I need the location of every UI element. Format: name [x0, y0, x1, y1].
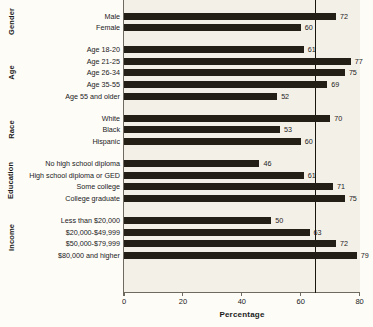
group-label-text: Gender: [7, 8, 16, 35]
group-label-age: Age: [0, 44, 22, 101]
horizontal-bar-chart: Male72Female60Age 18-2061Age 21-2577Age …: [0, 0, 373, 327]
bar-value-label: 53: [284, 124, 292, 135]
bar-row: Female60: [124, 22, 373, 33]
bar-value-label: 72: [340, 11, 348, 22]
x-axis-tick: [241, 292, 242, 296]
bar: [124, 195, 345, 202]
group-label-education: Education: [0, 158, 22, 204]
bar-value-label: 63: [314, 227, 322, 238]
bar-value-label: 60: [305, 136, 313, 147]
x-axis-tick: [359, 292, 360, 296]
x-axis-tick-label: 80: [355, 297, 363, 306]
bar-value-label: 75: [349, 67, 357, 78]
bar-category-label: $20,000-$49,999: [66, 227, 120, 238]
bar-value-label: 46: [263, 158, 271, 169]
bar: [124, 126, 280, 133]
bar-category-label: Age 26-34: [87, 67, 120, 78]
x-axis-tick: [182, 292, 183, 296]
bar-row: Age 35-5569: [124, 79, 373, 90]
x-axis-tick-label: 0: [122, 297, 126, 306]
bar-category-label: $80,000 and higher: [58, 250, 120, 261]
bar-category-label: Age 18-20: [87, 44, 120, 55]
bar-value-label: 50: [275, 215, 283, 226]
bar: [124, 93, 277, 100]
bar-category-label: Hispanic: [92, 136, 120, 147]
bar-row: Male72: [124, 11, 373, 22]
bar-row: High school diploma or GED61: [124, 170, 373, 181]
bar-value-label: 52: [281, 91, 289, 102]
bar: [124, 13, 336, 20]
bar-row: $50,000-$79,99972: [124, 238, 373, 249]
x-axis-tick-label: 20: [179, 297, 187, 306]
group-label-race: Race: [0, 113, 22, 147]
bar-row: Some college71: [124, 181, 373, 192]
bar-row: Age 55 and older52: [124, 91, 373, 102]
bar-value-label: 70: [334, 113, 342, 124]
bar-category-label: $50,000-$79,999: [66, 238, 120, 249]
bar-category-label: Some college: [76, 181, 120, 192]
bar-value-label: 71: [337, 181, 345, 192]
group-label-text: Education: [7, 162, 16, 199]
bar-row: Age 21-2577: [124, 56, 373, 67]
bar-row: $80,000 and higher79: [124, 250, 373, 261]
bar-category-label: College graduate: [65, 193, 120, 204]
bar-category-label: High school diploma or GED: [29, 170, 120, 181]
bar-value-label: 60: [305, 22, 313, 33]
bar-value-label: 69: [331, 79, 339, 90]
bar-value-label: 75: [349, 193, 357, 204]
x-axis-tick-label: 40: [238, 297, 246, 306]
bar-category-label: Less than $20,000: [61, 215, 120, 226]
bar-category-label: Age 21-25: [87, 56, 120, 67]
x-axis-tick-label: 60: [297, 297, 305, 306]
bar: [124, 115, 330, 122]
bar-category-label: Black: [102, 124, 120, 135]
bar-value-label: 77: [355, 56, 363, 67]
group-label-text: Race: [7, 121, 16, 139]
bar: [124, 160, 259, 167]
bar-row: Age 26-3475: [124, 67, 373, 78]
bar: [124, 240, 336, 247]
bar-row: White70: [124, 113, 373, 124]
group-label-gender: Gender: [0, 11, 22, 34]
bar-row: Black53: [124, 124, 373, 135]
bar: [124, 138, 301, 145]
group-label-text: Age: [7, 66, 16, 80]
bar-category-label: Female: [96, 22, 120, 33]
bar: [124, 183, 333, 190]
group-label-income: Income: [0, 215, 22, 261]
bar: [124, 81, 327, 88]
bar: [124, 172, 304, 179]
bar: [124, 69, 345, 76]
bar: [124, 58, 351, 65]
group-label-text: Income: [7, 224, 16, 251]
bar-category-label: No high school diploma: [45, 158, 120, 169]
x-axis-tick: [300, 292, 301, 296]
bar-category-label: White: [102, 113, 120, 124]
bar-row: $20,000-$49,99963: [124, 227, 373, 238]
bar-value-label: 72: [340, 238, 348, 249]
bar-value-label: 61: [308, 170, 316, 181]
x-axis-tick: [123, 292, 124, 296]
bar-row: No high school diploma46: [124, 158, 373, 169]
bar: [124, 252, 357, 259]
bar: [124, 217, 271, 224]
x-axis-title: Percentage: [124, 310, 360, 319]
bar-category-label: Male: [104, 11, 120, 22]
bar: [124, 229, 310, 236]
bar: [124, 46, 304, 53]
bar-category-label: Age 55 and older: [65, 91, 120, 102]
bar-row: Age 18-2061: [124, 44, 373, 55]
bar-category-label: Age 35-55: [87, 79, 120, 90]
bar-row: Hispanic60: [124, 136, 373, 147]
bar: [124, 24, 301, 31]
bar-row: Less than $20,00050: [124, 215, 373, 226]
bar-value-label: 61: [308, 44, 316, 55]
bar-row: College graduate75: [124, 193, 373, 204]
bar-value-label: 79: [361, 250, 369, 261]
